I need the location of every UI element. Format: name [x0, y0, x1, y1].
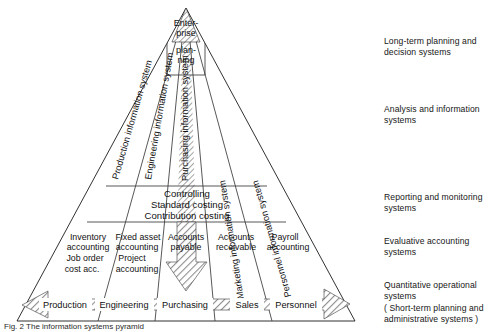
svg-text:Inventory: Inventory: [70, 232, 107, 242]
controlling-block: Controlling Standard costing Contributio…: [145, 188, 230, 221]
svg-text:cost acc.: cost acc.: [65, 264, 100, 274]
tier-note-line: administrative systems ): [384, 314, 484, 325]
base-departments: Production Engineering Purchasing Sales …: [39, 298, 322, 311]
tier-note-evaluative: Evaluative accounting systems: [384, 236, 469, 259]
base-department-engineering: Engineering: [95, 298, 154, 311]
svg-text:Engineering: Engineering: [99, 300, 148, 310]
base-department-sales: Sales: [230, 298, 264, 311]
svg-text:Accounts: Accounts: [168, 232, 205, 242]
accounting-cell-inventory: Inventory accounting Job order cost acc.: [65, 232, 110, 274]
column-label-purchasing: Purchasing information system: [180, 55, 190, 181]
accounting-cell-fixed-asset: Fixed asset accounting Project accountin…: [116, 232, 162, 274]
tier-note-line: systems: [384, 291, 484, 302]
accounting-cell-payroll: Payroll accounting: [267, 232, 310, 252]
svg-text:Job order: Job order: [66, 253, 103, 263]
svg-text:Personnel: Personnel: [275, 300, 316, 310]
base-department-production: Production: [39, 298, 92, 311]
svg-text:Accounts: Accounts: [218, 232, 255, 242]
controlling-line-0: Controlling: [164, 188, 210, 199]
apex-line-2: plan-: [176, 45, 196, 55]
tier-note-line: Long-term planning and: [384, 36, 477, 47]
svg-text:Payroll: Payroll: [272, 232, 299, 242]
tier-note-line: ( Short-term planning and: [384, 303, 484, 314]
accounting-cell-accounts-receivable: Accounts receivable: [216, 232, 256, 252]
diagram-canvas: Enter- prise plan- ning Production infor…: [0, 0, 502, 332]
base-department-purchasing: Purchasing: [157, 298, 213, 311]
tier-note-line: Reporting and monitoring: [384, 192, 483, 203]
tier-note-long-term: Long-term planning and decision systems: [384, 36, 477, 59]
tier-note-line: systems: [384, 203, 483, 214]
controlling-line-2: Contribution costing: [145, 210, 230, 221]
svg-text:accounting: accounting: [67, 242, 110, 252]
tier-note-line: Analysis and information: [384, 104, 480, 115]
svg-text:Fixed asset: Fixed asset: [116, 232, 162, 242]
svg-text:accounting: accounting: [267, 242, 310, 252]
tier-note-analysis: Analysis and information systems: [384, 104, 480, 127]
svg-text:Project: Project: [118, 253, 146, 263]
base-department-personnel: Personnel: [270, 298, 322, 311]
accounting-cell-accounts-payable: Accounts payable: [168, 232, 205, 252]
svg-text:accounting: accounting: [116, 264, 159, 274]
tier-note-line: Evaluative accounting: [384, 236, 469, 247]
tier-note-line: decision systems: [384, 47, 477, 58]
apex-line-1: prise: [176, 28, 196, 38]
tier-note-line: systems: [384, 247, 469, 258]
svg-text:Sales: Sales: [236, 300, 259, 310]
tier-note-reporting: Reporting and monitoring systems: [384, 192, 483, 215]
svg-text:Production: Production: [43, 300, 87, 310]
tier-annotations: Long-term planning and decision systems …: [384, 0, 502, 332]
controlling-line-1: Standard costing: [151, 199, 223, 210]
figure-caption: Fig. 2 The information systems pyramid: [4, 322, 154, 332]
tier-note-quantitative: Quantitative operational systems ( Short…: [384, 280, 484, 326]
svg-text:accounting: accounting: [116, 242, 159, 252]
tier-note-line: systems: [384, 115, 480, 126]
apex-line-0: Enter-: [174, 18, 199, 28]
svg-text:Purchasing: Purchasing: [162, 300, 208, 310]
tier-note-line: Quantitative operational: [384, 280, 484, 291]
svg-text:payable: payable: [171, 242, 202, 252]
svg-text:receivable: receivable: [216, 242, 256, 252]
